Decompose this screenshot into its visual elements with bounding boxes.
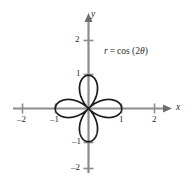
- x-tick-label-2: 2: [152, 115, 157, 124]
- y-tick-label-1: 1: [76, 69, 81, 78]
- x-tick-label-1: 1: [119, 115, 124, 124]
- x-tick-label-minus2: –2: [17, 115, 26, 124]
- equation-close-paren: ): [145, 46, 148, 56]
- equation-r: r: [104, 46, 108, 56]
- y-tick-label-minus2: –2: [71, 163, 80, 172]
- x-tick-label-minus1: –1: [50, 115, 59, 124]
- polar-rose-figure: –2 –1 1 2 2 1 –1 –2 x y r=cos (2θ): [0, 0, 189, 183]
- x-axis-arrowhead: [163, 105, 172, 113]
- x-axis-label: x: [176, 103, 180, 113]
- plot-canvas: [0, 0, 189, 183]
- y-axis-label: y: [91, 10, 95, 20]
- equation-function: cos (2: [117, 46, 140, 56]
- y-tick-label-2: 2: [75, 35, 80, 44]
- equation-equals: =: [110, 46, 115, 56]
- y-tick-label-minus1: –1: [72, 137, 81, 146]
- equation-annotation: r=cos (2θ): [104, 47, 148, 57]
